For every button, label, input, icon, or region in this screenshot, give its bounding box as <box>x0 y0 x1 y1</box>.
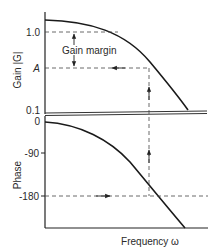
tick-neg-90: -90 <box>25 148 40 159</box>
gain-margin-label: Gain margin <box>62 45 116 56</box>
frequency-axis-label: Frequency ω <box>121 236 179 247</box>
phase-plot: 0 -90 -180 Phase <box>12 116 208 228</box>
gain-plot: Gain margin 1.0 A 0.1 Gain |G| <box>12 12 188 116</box>
tick-1-0: 1.0 <box>26 27 40 38</box>
gain-axis-label: Gain |G| <box>12 52 23 89</box>
bode-diagram: Gain margin 1.0 A 0.1 Gain |G| 0 -90 -18… <box>0 0 220 250</box>
separator-line-top <box>45 111 207 113</box>
gain-curve <box>45 20 188 110</box>
phase-axis-label: Phase <box>12 160 23 189</box>
tick-0: 0 <box>34 116 40 127</box>
separator-line-bottom <box>45 114 207 116</box>
tick-a: A <box>32 63 40 74</box>
tick-neg-180: -180 <box>19 191 39 202</box>
phase-curve <box>45 122 185 228</box>
tick-0-1: 0.1 <box>26 105 40 116</box>
